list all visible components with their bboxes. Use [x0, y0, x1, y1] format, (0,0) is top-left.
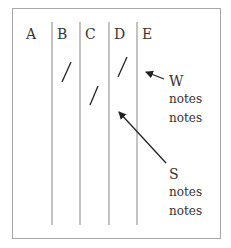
annotation-s-line: notes	[169, 186, 202, 198]
column-label-d: D	[114, 27, 125, 41]
slash-mark-d	[118, 57, 127, 77]
column-dividers	[52, 22, 137, 225]
annotation-s-line: notes	[169, 205, 202, 217]
arrow-w-icon	[146, 72, 164, 79]
column-label-a: A	[26, 27, 36, 41]
annotation-w-line: notes	[169, 93, 202, 105]
arrow-s-icon	[119, 112, 166, 163]
slash-mark-c	[90, 86, 98, 105]
slash-mark-b	[62, 62, 71, 82]
column-label-b: B	[57, 27, 67, 41]
column-label-c: C	[85, 27, 96, 41]
annotation-w-line: notes	[169, 112, 202, 124]
annotation-s-title: S	[169, 167, 179, 181]
column-label-e: E	[142, 27, 152, 41]
annotation-w-title: W	[169, 74, 183, 88]
